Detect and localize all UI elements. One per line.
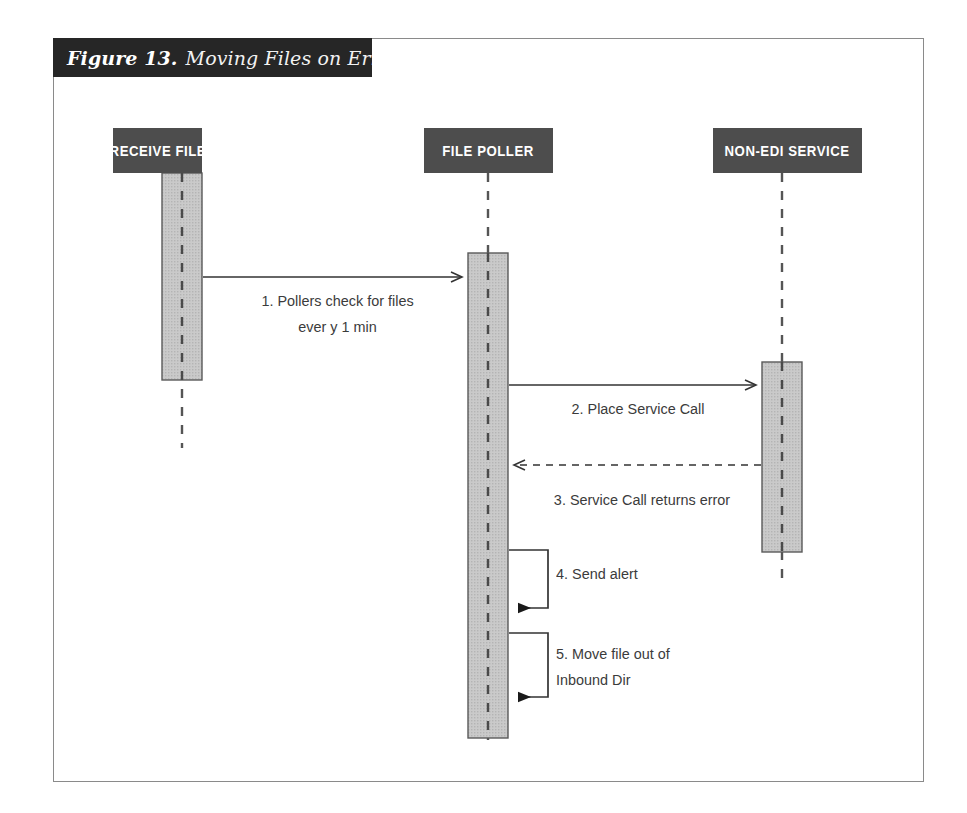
message-self-loop-5 (509, 633, 548, 697)
figure-title: Moving Files on Error (186, 47, 372, 69)
message-label-2: 2. Place Service Call (525, 396, 752, 422)
actor-header-non-edi-service[interactable]: NON-EDI SERVICE (713, 128, 862, 173)
message-self-loop-4 (509, 550, 548, 608)
message-label-4: 4. Send alert (556, 561, 723, 587)
actor-label-receive-file: RECEIVE FILE (109, 142, 206, 159)
figure-caption: Figure 13. Moving Files on Error (53, 38, 372, 77)
actor-header-receive-file[interactable]: RECEIVE FILE (113, 128, 202, 173)
sequence-diagram-canvas (0, 0, 967, 813)
actor-label-file-poller: FILE POLLER (443, 142, 535, 159)
actor-header-file-poller[interactable]: FILE POLLER (424, 128, 553, 173)
activation-bar-receive-file (162, 173, 202, 380)
actor-label-non-edi-service: NON-EDI SERVICE (725, 142, 850, 159)
figure-page: RECEIVE FILE FILE POLLER NON-EDI SERVICE… (0, 0, 967, 813)
message-label-3: 3. Service Call returns error (523, 487, 761, 513)
figure-number: Figure 13. (67, 47, 178, 69)
sequence-diagram (0, 0, 967, 813)
message-label-1: 1. Pollers check for files ever y 1 min (219, 288, 456, 340)
message-label-5: 5. Move file out of Inbound Dir (556, 641, 723, 693)
